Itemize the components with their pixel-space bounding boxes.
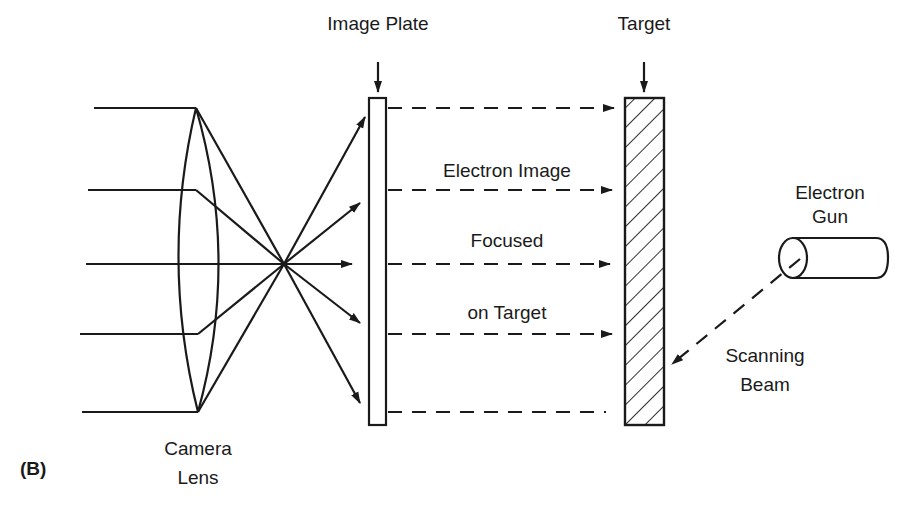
target	[625, 62, 664, 425]
focused-label: Focused	[471, 230, 544, 251]
panel-label: (B)	[20, 458, 46, 479]
diverging-rays	[284, 117, 365, 403]
camera-lens	[178, 108, 218, 412]
electron-gun-label-line2: Gun	[812, 206, 848, 227]
incoming-rays	[80, 108, 352, 412]
electron-image-beams	[388, 108, 614, 412]
electron-gun-label-line1: Electron	[795, 182, 865, 203]
scanning-beam-label-line2: Beam	[740, 374, 790, 395]
image-plate-label: Image Plate	[327, 13, 428, 34]
electron-gun	[779, 238, 888, 278]
target-label: Target	[618, 13, 672, 34]
camera-lens-label-line2: Lens	[177, 467, 218, 488]
camera-lens-label-line1: Camera	[164, 438, 232, 459]
camera-tube-diagram: Image Plate Electron Image Focused on Ta…	[0, 0, 906, 510]
on-target-label: on Target	[468, 302, 548, 323]
image-plate	[369, 62, 386, 425]
electron-image-label: Electron Image	[443, 160, 571, 181]
scanning-beam-label-line1: Scanning	[725, 345, 804, 366]
